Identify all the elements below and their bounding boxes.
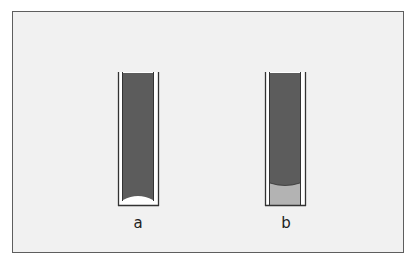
- tube-b-dark-liquid: [270, 73, 300, 186]
- tubes-diagram: [0, 0, 418, 278]
- tube-a-liquid: [123, 73, 153, 200]
- label-a: a: [128, 214, 148, 232]
- tube-a: [118, 72, 159, 206]
- tube-b: [265, 72, 306, 206]
- label-b: b: [276, 214, 296, 232]
